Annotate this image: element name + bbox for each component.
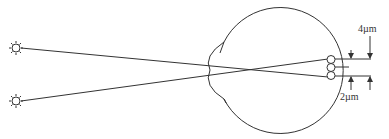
cornea-edge-bottom (224, 99, 226, 103)
label-2um: 2µm (340, 91, 359, 102)
dimension-lines (335, 36, 371, 90)
ray-bottom-source (21, 59, 328, 101)
light-source-bottom-icon (9, 94, 23, 108)
light-source-top-icon (9, 41, 23, 55)
label-4um: 4µm (358, 23, 377, 34)
retinal-cones (327, 56, 335, 80)
eye-diagram: 4µm 2µm (0, 0, 389, 139)
ray-top-source (21, 48, 328, 77)
cornea (208, 42, 224, 99)
